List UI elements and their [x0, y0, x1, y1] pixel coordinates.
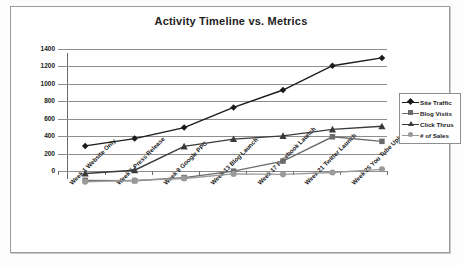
- gridline: [58, 101, 387, 102]
- data-point-marker: [181, 175, 186, 180]
- x-axis-tick-mark: [199, 171, 200, 175]
- x-axis-tick-label: Week 9 Google PPC: [162, 140, 208, 186]
- legend-item-site-traffic[interactable]: Site Traffic: [402, 97, 458, 107]
- gridline: [58, 136, 387, 137]
- x-axis-tick-mark: [246, 171, 247, 175]
- y-axis-tick-label: 600: [21, 115, 55, 122]
- data-point-marker: [82, 179, 88, 185]
- x-axis-tick-mark: [293, 171, 294, 175]
- y-axis-line: [67, 53, 68, 179]
- x-axis-tick-label: Week 13 Blog Launch: [209, 136, 259, 186]
- legend-item-click-thrus[interactable]: Click Thrus: [402, 119, 458, 129]
- data-point-marker: [379, 139, 384, 144]
- y-axis-tick-label: 400: [21, 132, 55, 139]
- data-point-marker: [181, 175, 187, 181]
- data-point-marker: [230, 104, 237, 111]
- legend-circle-icon: [402, 130, 419, 140]
- y-axis-tick-label: 0: [21, 167, 55, 174]
- data-point-marker: [329, 126, 336, 133]
- gridline: [58, 66, 387, 67]
- legend-triangle-icon: [402, 119, 419, 129]
- legend-square-icon: [402, 108, 419, 118]
- legend-diamond-icon: [402, 97, 419, 107]
- data-point-marker: [82, 178, 87, 183]
- data-point-marker: [132, 177, 138, 183]
- legend-label: Click Thrus: [419, 121, 454, 128]
- x-axis-tick-mark: [105, 171, 106, 175]
- data-point-marker: [82, 143, 89, 150]
- legend-label: Blog Visits: [419, 110, 452, 117]
- x-axis-tick-mark: [58, 171, 59, 175]
- legend-label: # of Sales: [419, 132, 449, 139]
- chart-frame: Activity Timeline vs. Metrics 1400120010…: [10, 6, 450, 253]
- gridline: [58, 84, 387, 85]
- x-axis-tick-mark: [340, 171, 341, 175]
- x-axis-tick-mark: [387, 171, 388, 175]
- chart-legend: Site TrafficBlog VisitsClick Thrus# of S…: [399, 93, 461, 144]
- y-axis-tick-label: 800: [21, 97, 55, 104]
- data-point-marker: [181, 124, 188, 131]
- y-axis-tick-label: 1400: [21, 45, 55, 52]
- gridline: [58, 119, 387, 120]
- chart-screenshot: Activity Timeline vs. Metrics 1400120010…: [0, 0, 463, 266]
- legend-item-of-sales[interactable]: # of Sales: [402, 130, 458, 140]
- data-point-marker: [280, 171, 286, 177]
- data-point-marker: [181, 143, 188, 150]
- data-point-marker: [280, 87, 287, 94]
- data-point-marker: [378, 123, 385, 130]
- chart-title: Activity Timeline vs. Metrics: [11, 15, 451, 27]
- data-point-marker: [132, 178, 137, 183]
- legend-label: Site Traffic: [419, 99, 452, 106]
- gridline: [58, 49, 387, 50]
- x-axis-tick-label: Week 1 Website Only: [68, 137, 117, 186]
- x-axis-tick-label: Week 5 Press Release: [115, 135, 166, 186]
- x-axis-tick-mark: [152, 171, 153, 175]
- y-axis-tick-label: 1200: [21, 62, 55, 69]
- data-point-marker: [379, 55, 386, 62]
- y-axis-tick-label: 200: [21, 150, 55, 157]
- x-axis-tick-label: Week 21 Twitter Launch: [303, 132, 357, 186]
- legend-item-blog-visits[interactable]: Blog Visits: [402, 108, 458, 118]
- y-axis-tick-label: 1000: [21, 80, 55, 87]
